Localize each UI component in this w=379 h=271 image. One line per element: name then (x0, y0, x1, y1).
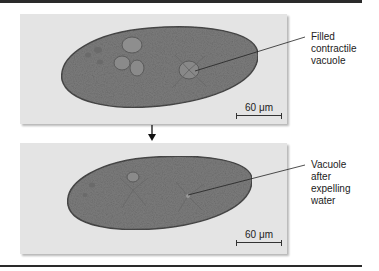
paramecium-cell-1 (62, 27, 258, 107)
down-arrow-icon (148, 125, 156, 141)
label-line: water (311, 195, 350, 207)
scale-bar-label-1: 60 μm (236, 102, 282, 113)
label-line: after (311, 171, 350, 183)
paramecium-cell-2 (68, 156, 252, 229)
label-line: Filled (311, 31, 357, 43)
label-line: vacuole (311, 55, 357, 67)
label-line: expelling (311, 183, 350, 195)
scale-bar-label-2: 60 μm (236, 229, 282, 240)
label-line: contractile (311, 43, 357, 55)
label-vacuole-after-expelling: Vacuole after expelling water (311, 159, 350, 207)
scale-bar-2 (236, 240, 282, 246)
label-line: Vacuole (311, 159, 350, 171)
label-filled-contractile-vacuole: Filled contractile vacuole (311, 31, 357, 67)
bottom-rule (0, 265, 362, 267)
scale-bar-1 (236, 113, 282, 119)
